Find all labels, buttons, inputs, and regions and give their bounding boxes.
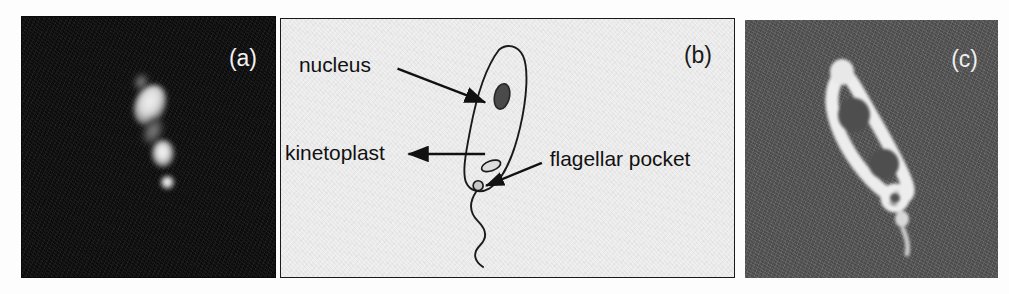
panel-c-nucleus-void <box>838 98 870 132</box>
panel-c-flagellum-spot <box>895 211 909 227</box>
label-flagellar-pocket: flagellar pocket <box>550 147 691 170</box>
panel-c-letter: (c) <box>951 48 978 71</box>
panel-c-cell-rim <box>832 72 908 198</box>
flagellar-pocket-shape <box>473 181 483 191</box>
figure-container: (a) nucleus <box>0 0 1009 294</box>
panel-c-kinetoplast-void <box>869 149 899 179</box>
label-nucleus: nucleus <box>299 53 371 76</box>
label-kinetoplast: kinetoplast <box>285 141 385 164</box>
panel-a-micrograph: (a) <box>22 17 275 277</box>
panel-a-letter: (a) <box>229 47 257 70</box>
nucleus-shape <box>492 82 512 110</box>
panel-c-micrograph: (c) <box>745 20 998 278</box>
panel-a-kinetoplast-signal <box>152 140 174 167</box>
panel-b-letter: (b) <box>684 44 712 67</box>
flagellum-shape <box>471 192 485 267</box>
panel-a-flagellar-pocket-signal <box>161 176 174 189</box>
panel-b-drawing: nucleus kinetoplast flagellar pocket <box>281 19 734 277</box>
arrow-nucleus <box>397 69 485 103</box>
kinetoplast-shape <box>480 158 502 174</box>
panel-c-flagellar-pocket-lumen <box>890 193 900 203</box>
panel-b-diagram: nucleus kinetoplast flagellar pocket (b) <box>280 18 735 278</box>
panel-c-anterior-tip <box>830 59 854 85</box>
panel-c-flagellum-streak <box>903 229 908 254</box>
